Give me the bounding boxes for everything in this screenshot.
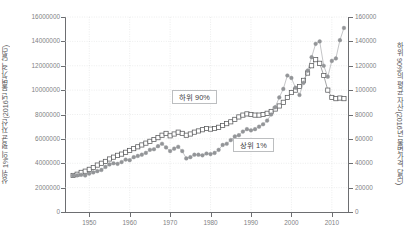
y-axis-right-tickmark [349, 188, 353, 189]
x-axis-tickmark [89, 213, 90, 217]
chart-container: 상위 1%의 평균 자산(2016년 불변가격 달러) 하위 90%의 평균 자… [0, 0, 409, 245]
y-axis-left-tickmark [61, 139, 65, 140]
y-axis-left-tickmark [61, 17, 65, 18]
x-axis-tick-label: 1960 [116, 219, 144, 226]
y-axis-right-tick-label: 20000 [355, 184, 395, 191]
y-axis-right-tickmark [349, 163, 353, 164]
y-axis-right-tickmark [349, 212, 353, 213]
y-axis-right-tick-label: 0 [355, 208, 395, 215]
y-axis-left-tick-label: 16000000 [16, 13, 60, 20]
x-axis-tickmark [130, 213, 131, 217]
y-axis-left-tick-label: 4000000 [16, 159, 60, 166]
y-axis-left-tickmark [61, 163, 65, 164]
x-axis-tickmark [291, 213, 292, 217]
y-axis-left-tick-label: 6000000 [16, 135, 60, 142]
y-axis-right-tickmark [349, 139, 353, 140]
y-axis-right-tick-label: 140000 [355, 37, 395, 44]
y-axis-left-tickmark [61, 188, 65, 189]
y-axis-right-tick-label: 80000 [355, 111, 395, 118]
x-axis-tick-label: 1970 [156, 219, 184, 226]
series-bottom90 [71, 58, 346, 178]
x-axis-tickmark [332, 213, 333, 217]
y-axis-right-tickmark [349, 90, 353, 91]
y-axis-left-tick-label: 2000000 [16, 184, 60, 191]
x-axis-tick-label: 2010 [318, 219, 346, 226]
y-axis-right-tick-label: 60000 [355, 135, 395, 142]
y-axis-left-tickmark [61, 115, 65, 116]
y-axis-left-tick-label: 10000000 [16, 86, 60, 93]
x-axis-tick-label: 1950 [75, 219, 103, 226]
y-axis-left-tickmark [61, 66, 65, 67]
x-axis-tickmark [170, 213, 171, 217]
y-axis-right-tickmark [349, 17, 353, 18]
y-axis-right-tick-label: 40000 [355, 159, 395, 166]
y-axis-left-tickmark [61, 41, 65, 42]
y-axis-right-tick-label: 120000 [355, 62, 395, 69]
y-axis-left-tickmark [61, 212, 65, 213]
x-axis-tick-label: 1990 [237, 219, 265, 226]
chart-plot-canvas [0, 0, 409, 245]
y-axis-right-tick-label: 160000 [355, 13, 395, 20]
x-axis-tick-label: 1980 [197, 219, 225, 226]
y-axis-left-tick-label: 0 [16, 208, 60, 215]
x-axis-tickmark [251, 213, 252, 217]
y-axis-right-tickmark [349, 115, 353, 116]
y-axis-left-tick-label: 12000000 [16, 62, 60, 69]
y-axis-right-tick-label: 100000 [355, 86, 395, 93]
gridlines [65, 17, 348, 212]
y-axis-left-tickmark [61, 90, 65, 91]
y-axis-left-tick-label: 8000000 [16, 111, 60, 118]
x-axis-tickmark [211, 213, 212, 217]
y-axis-right-tickmark [349, 66, 353, 67]
series-label-top1: 상위 1% [233, 138, 274, 152]
x-axis-tick-label: 2000 [277, 219, 305, 226]
y-axis-left-tick-label: 14000000 [16, 37, 60, 44]
y-axis-right-tickmark [349, 41, 353, 42]
series-label-bottom90: 하위 90% [172, 90, 217, 104]
